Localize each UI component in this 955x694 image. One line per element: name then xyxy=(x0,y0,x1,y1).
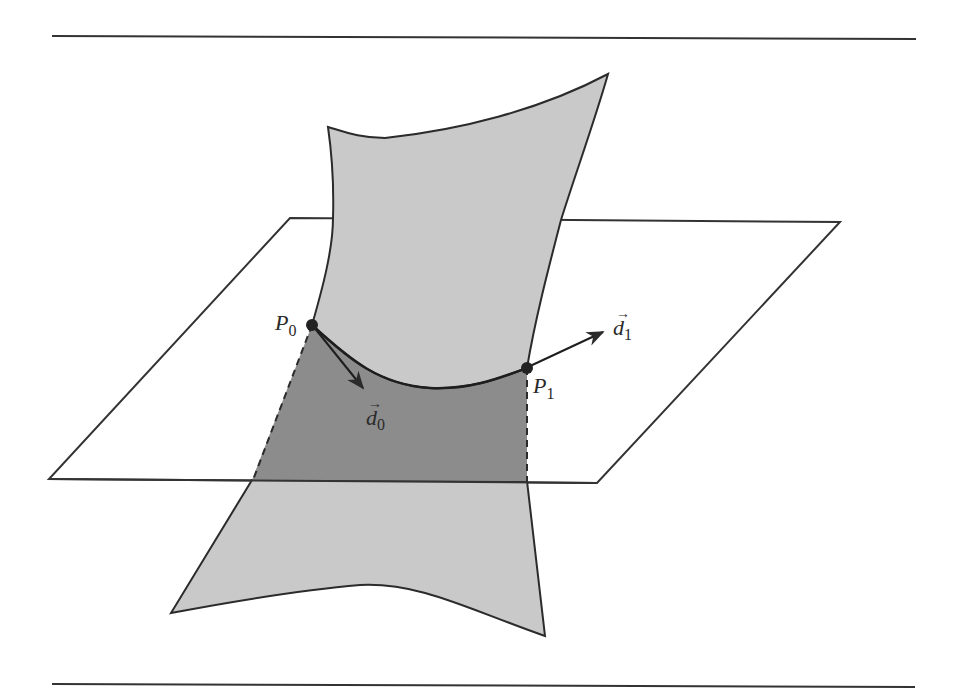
surface-lower xyxy=(171,480,545,636)
point-p1 xyxy=(521,362,533,374)
diagram-canvas: P0 P1 → d0 → d1 xyxy=(0,0,955,694)
top-rule xyxy=(52,36,916,39)
bottom-rule xyxy=(52,684,915,687)
point-p0 xyxy=(306,319,318,331)
